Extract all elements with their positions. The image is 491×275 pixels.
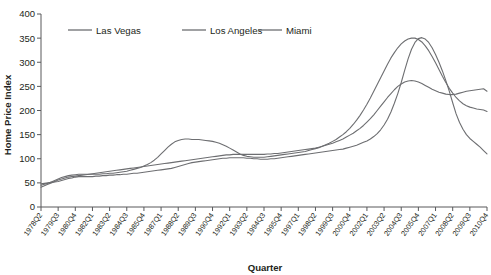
- y-tick-label: 50: [24, 177, 35, 188]
- series-line-miami: [41, 81, 487, 188]
- x-axis: 1978Q21979Q31980Q41982Q11983Q21984Q31985…: [22, 207, 490, 238]
- y-tick-label: 0: [30, 201, 35, 212]
- legend-item-los-angeles: Los Angeles: [182, 25, 262, 36]
- y-tick-label: 250: [19, 81, 35, 92]
- chart-canvas: 050100150200250300350400 1978Q21979Q3198…: [0, 0, 491, 275]
- y-axis-title: Home Price Index: [2, 74, 13, 155]
- legend-item-miami: Miami: [258, 25, 312, 36]
- y-tick-label: 300: [19, 57, 35, 68]
- legend-label: Miami: [286, 25, 312, 36]
- y-tick-label: 400: [19, 8, 35, 19]
- series-line-los-angeles: [41, 38, 487, 185]
- y-tick-label: 100: [19, 153, 35, 164]
- x-axis-title: Quarter: [248, 262, 283, 273]
- legend-label: Los Angeles: [210, 25, 262, 36]
- legend-label: Las Vegas: [96, 25, 141, 36]
- y-tick-label: 150: [19, 129, 35, 140]
- series-lines: [41, 38, 487, 188]
- legend-item-las-vegas: Las Vegas: [68, 25, 141, 36]
- y-tick-label: 350: [19, 33, 35, 44]
- y-axis: 050100150200250300350400: [19, 8, 41, 212]
- y-tick-label: 200: [19, 105, 35, 116]
- series-line-las-vegas: [41, 38, 487, 184]
- chart-legend: Las VegasLos AngelesMiami: [68, 25, 312, 36]
- home-price-index-chart: 050100150200250300350400 1978Q21979Q3198…: [0, 0, 491, 275]
